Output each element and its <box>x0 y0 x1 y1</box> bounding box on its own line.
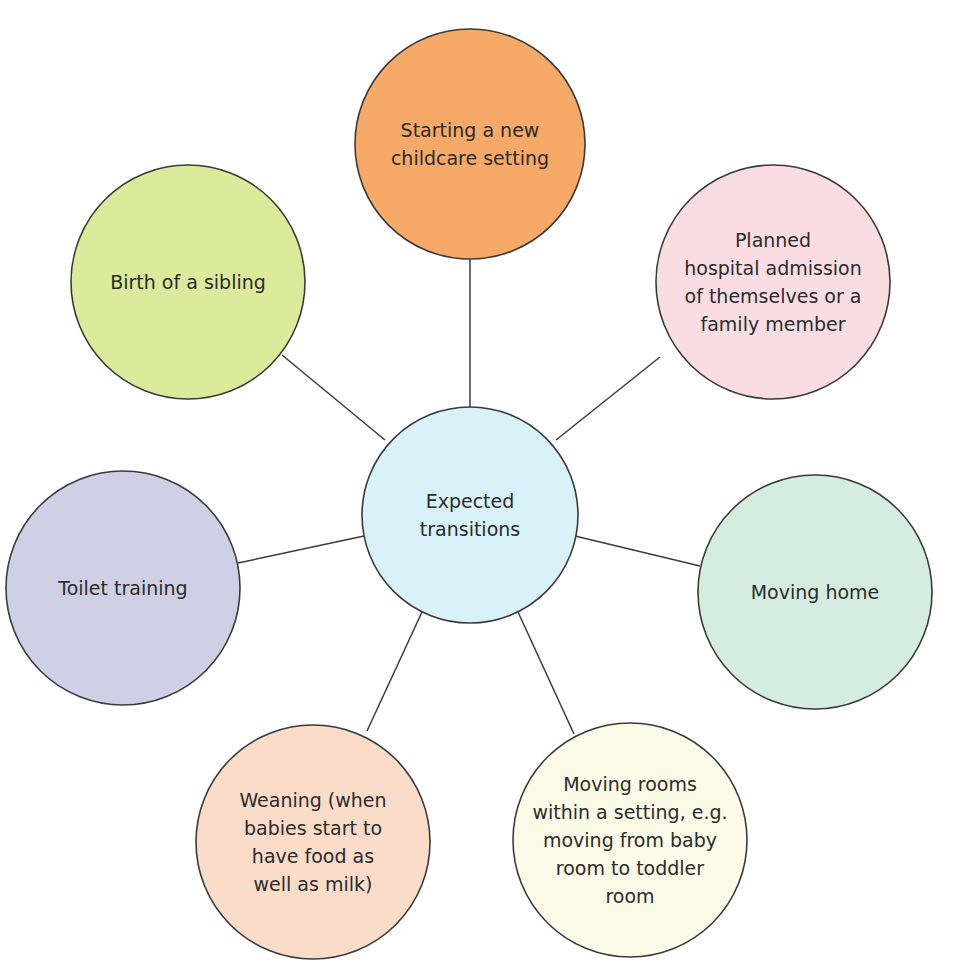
node-label-hospital-admission: Planned hospital admission of themselves… <box>664 226 882 338</box>
connector-line-moving-home <box>575 536 700 566</box>
center-node-label: Expected transitions <box>370 487 570 543</box>
connector-line-birth-sibling <box>282 355 385 440</box>
node-label-toilet-training: Toilet training <box>14 574 232 602</box>
connector-line-weaning <box>367 612 422 731</box>
node-label-birth-sibling: Birth of a sibling <box>79 268 297 296</box>
connector-line-hospital-admission <box>556 357 660 440</box>
connector-line-moving-rooms <box>518 612 574 734</box>
node-label-weaning: Weaning (when babies start to have food … <box>204 786 422 898</box>
node-label-starting-childcare: Starting a new childcare setting <box>363 116 577 172</box>
node-label-moving-home: Moving home <box>706 578 924 606</box>
node-label-moving-rooms: Moving rooms within a setting, e.g. movi… <box>521 770 739 910</box>
connector-line-toilet-training <box>238 536 364 563</box>
